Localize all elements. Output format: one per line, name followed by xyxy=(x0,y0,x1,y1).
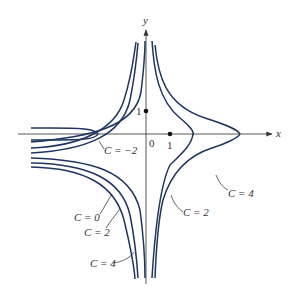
label-c4-right: C = 4 xyxy=(228,187,254,199)
label-c4-left: C = 4 xyxy=(90,257,116,269)
curve-upper-right-inner xyxy=(152,41,193,135)
curve-upper-right-outer xyxy=(155,45,240,134)
curve-upper-left-inner xyxy=(31,43,138,153)
point-x1 xyxy=(168,132,173,137)
curve-upper-left-outer xyxy=(31,42,136,148)
label-c-neg2: C = −2 xyxy=(104,144,138,156)
x-tick-label: 1 xyxy=(167,139,173,151)
family-of-curves-diagram: x y 0 1 1 C = −2 C = 0 C = 2 C = 4 C = 2… xyxy=(0,0,293,302)
y-axis-label: y xyxy=(142,14,148,26)
label-c2-right: C = 2 xyxy=(183,206,209,218)
y-tick-label: 1 xyxy=(136,105,142,117)
leader-c2-right xyxy=(171,195,183,212)
label-c0: C = 0 xyxy=(74,211,100,223)
curve-c4-left xyxy=(31,167,135,279)
leader-c0 xyxy=(100,194,112,214)
leader-c4-right xyxy=(216,175,228,190)
label-c2-left: C = 2 xyxy=(84,226,110,238)
curve-upper-center xyxy=(31,41,145,142)
point-y1 xyxy=(144,109,149,114)
x-axis-label: x xyxy=(275,127,281,139)
origin-label: 0 xyxy=(149,137,155,149)
